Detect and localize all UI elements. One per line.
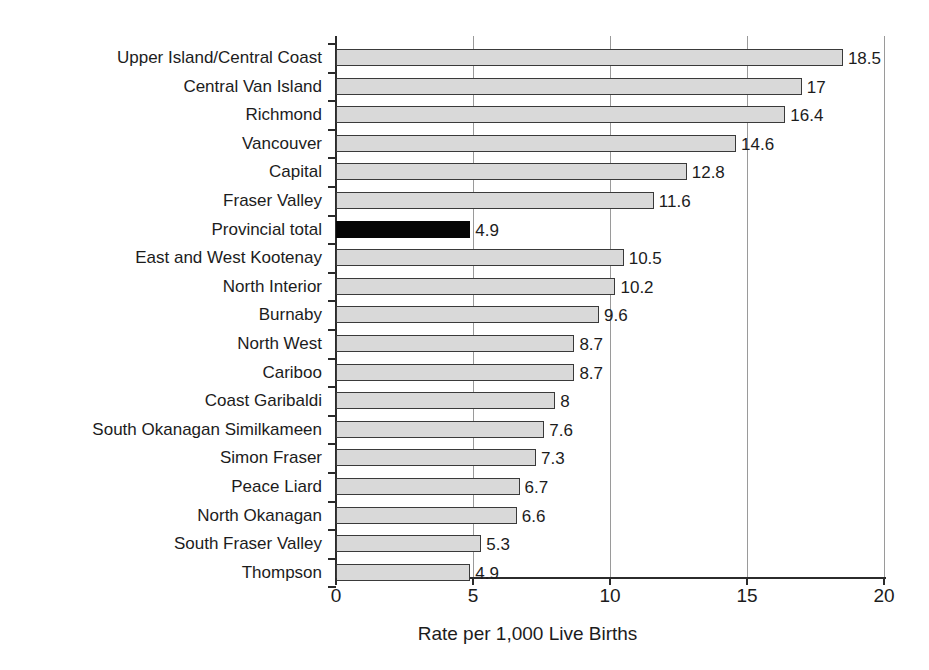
bar[interactable] bbox=[336, 163, 687, 180]
bar[interactable] bbox=[336, 278, 615, 295]
x-tick-label: 10 bbox=[599, 586, 620, 605]
bar[interactable] bbox=[336, 106, 785, 123]
y-tick bbox=[328, 386, 336, 388]
category-label: Simon Fraser bbox=[0, 449, 322, 466]
bar-row: South Fraser Valley5.3 bbox=[0, 535, 929, 552]
bar[interactable] bbox=[336, 564, 470, 581]
bar-value-label: 10.5 bbox=[629, 250, 662, 267]
y-tick bbox=[328, 472, 336, 474]
x-axis-title: Rate per 1,000 Live Births bbox=[0, 624, 929, 643]
y-tick bbox=[328, 300, 336, 302]
bar-row: North Interior10.2 bbox=[0, 278, 929, 295]
bar-row: North Okanagan6.6 bbox=[0, 507, 929, 524]
bar-chart: Upper Island/Central Coast18.5Central Va… bbox=[0, 0, 929, 670]
x-tick bbox=[335, 578, 337, 585]
bar-row: Peace Liard6.7 bbox=[0, 478, 929, 495]
category-label: Cariboo bbox=[0, 364, 322, 381]
bar-value-label: 5.3 bbox=[486, 536, 510, 553]
category-label: Capital bbox=[0, 163, 322, 180]
category-label: North Okanagan bbox=[0, 507, 322, 524]
x-tick bbox=[746, 578, 748, 585]
x-tick-label: 20 bbox=[873, 586, 894, 605]
bar[interactable] bbox=[336, 421, 544, 438]
bar-value-label: 6.7 bbox=[525, 479, 549, 496]
bar-value-label: 14.6 bbox=[741, 136, 774, 153]
bar-value-label: 16.4 bbox=[790, 107, 823, 124]
y-tick bbox=[328, 186, 336, 188]
category-label: Fraser Valley bbox=[0, 192, 322, 209]
y-tick bbox=[328, 329, 336, 331]
bar-value-label: 12.8 bbox=[692, 164, 725, 181]
bar-value-label: 7.6 bbox=[549, 422, 573, 439]
bar[interactable] bbox=[336, 507, 517, 524]
bar-row: Central Van Island17 bbox=[0, 78, 929, 95]
category-label: North West bbox=[0, 335, 322, 352]
y-tick bbox=[328, 558, 336, 560]
y-tick bbox=[328, 100, 336, 102]
y-tick bbox=[328, 43, 336, 45]
bar-row: Burnaby9.6 bbox=[0, 306, 929, 323]
bar-row: Richmond16.4 bbox=[0, 106, 929, 123]
y-tick bbox=[328, 415, 336, 417]
bar-row: Simon Fraser7.3 bbox=[0, 449, 929, 466]
y-tick bbox=[328, 129, 336, 131]
bar[interactable] bbox=[336, 392, 555, 409]
category-label: East and West Kootenay bbox=[0, 249, 322, 266]
y-tick bbox=[328, 358, 336, 360]
bar-value-label: 8.7 bbox=[579, 336, 603, 353]
y-tick bbox=[328, 72, 336, 74]
bar[interactable] bbox=[336, 192, 654, 209]
bar[interactable] bbox=[336, 249, 624, 266]
bar[interactable] bbox=[336, 364, 574, 381]
category-label: Central Van Island bbox=[0, 78, 322, 95]
y-tick bbox=[328, 529, 336, 531]
bar-value-label: 18.5 bbox=[848, 50, 881, 67]
bar[interactable] bbox=[336, 335, 574, 352]
x-tick bbox=[883, 578, 885, 585]
category-label: Coast Garibaldi bbox=[0, 392, 322, 409]
bar-value-label: 17 bbox=[807, 79, 826, 96]
y-tick bbox=[328, 243, 336, 245]
bar-row: Provincial total4.9 bbox=[0, 221, 929, 238]
bar-row: Coast Garibaldi8 bbox=[0, 392, 929, 409]
bar-value-label: 8 bbox=[560, 393, 569, 410]
y-tick bbox=[328, 443, 336, 445]
x-tick bbox=[609, 578, 611, 585]
bar-row: Cariboo8.7 bbox=[0, 364, 929, 381]
bar-row: Capital12.8 bbox=[0, 163, 929, 180]
bar[interactable] bbox=[336, 478, 520, 495]
category-label: North Interior bbox=[0, 278, 322, 295]
bar-row: Upper Island/Central Coast18.5 bbox=[0, 49, 929, 66]
y-tick bbox=[328, 586, 336, 588]
bar[interactable] bbox=[336, 49, 843, 66]
bar-value-label: 4.9 bbox=[475, 565, 499, 582]
x-tick-label: 5 bbox=[468, 586, 479, 605]
bar-row: Fraser Valley11.6 bbox=[0, 192, 929, 209]
y-tick bbox=[328, 157, 336, 159]
bar[interactable] bbox=[336, 449, 536, 466]
bar[interactable] bbox=[336, 306, 599, 323]
x-axis-title-text: Rate per 1,000 Live Births bbox=[418, 624, 638, 643]
bar-value-label: 9.6 bbox=[604, 307, 628, 324]
category-label: Vancouver bbox=[0, 135, 322, 152]
y-tick bbox=[328, 501, 336, 503]
bar-value-label: 8.7 bbox=[579, 365, 603, 382]
y-tick bbox=[328, 215, 336, 217]
category-label: South Okanagan Similkameen bbox=[0, 421, 322, 438]
bar-row: Vancouver14.6 bbox=[0, 135, 929, 152]
bar-highlighted[interactable] bbox=[336, 221, 470, 238]
bar-value-label: 4.9 bbox=[475, 222, 499, 239]
bar[interactable] bbox=[336, 535, 481, 552]
bar[interactable] bbox=[336, 135, 736, 152]
category-label: South Fraser Valley bbox=[0, 535, 322, 552]
bar-value-label: 11.6 bbox=[659, 193, 691, 210]
bar[interactable] bbox=[336, 78, 802, 95]
x-tick-label: 0 bbox=[331, 586, 342, 605]
bar-value-label: 10.2 bbox=[620, 279, 653, 296]
bar-row: South Okanagan Similkameen7.6 bbox=[0, 421, 929, 438]
bar-value-label: 7.3 bbox=[541, 450, 565, 467]
bar-row: Thompson4.9 bbox=[0, 564, 929, 581]
category-label: Burnaby bbox=[0, 306, 322, 323]
x-tick bbox=[472, 578, 474, 585]
category-label: Provincial total bbox=[0, 221, 322, 238]
